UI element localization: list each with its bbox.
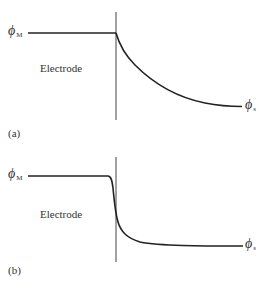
phi-subscript: M <box>16 31 22 39</box>
panel-label-b: (b) <box>8 264 21 276</box>
phi-subscript: s <box>253 244 256 252</box>
potential-decay-curve-a <box>116 33 242 107</box>
electrode-label-b: Electrode <box>40 208 82 220</box>
phi-subscript: M <box>16 174 22 182</box>
phi-s-label-a: ϕs <box>245 99 256 115</box>
phi-symbol: ϕ <box>245 236 252 251</box>
phi-symbol: ϕ <box>8 23 15 38</box>
phi-m-label-b: ϕM <box>8 168 22 184</box>
phi-symbol: ϕ <box>245 97 252 112</box>
diagram-canvas <box>0 0 268 290</box>
panel-label-a: (a) <box>8 127 20 139</box>
phi-symbol: ϕ <box>8 166 15 181</box>
electrode-label-a: Electrode <box>40 62 82 74</box>
phi-subscript: s <box>253 105 256 113</box>
phi-s-label-b: ϕs <box>245 238 256 254</box>
phi-m-label-a: ϕM <box>8 25 22 41</box>
